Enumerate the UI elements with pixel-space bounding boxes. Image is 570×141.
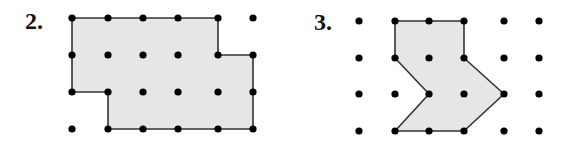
grid-dot <box>460 54 467 61</box>
grid-dot <box>355 90 362 97</box>
grid-dot <box>104 51 111 58</box>
grid-dot <box>391 127 398 134</box>
grid-dot <box>425 54 432 61</box>
grid-dot <box>214 14 221 21</box>
grid-dot <box>500 127 507 134</box>
grid-dot <box>425 127 432 134</box>
grid-dot <box>174 125 181 132</box>
grid-dot <box>174 88 181 95</box>
grid-dot <box>249 125 256 132</box>
grid-dot <box>535 127 542 134</box>
grid-dot <box>460 127 467 134</box>
grid-dot <box>249 88 256 95</box>
grid-dot <box>460 90 467 97</box>
grid-dot <box>500 17 507 24</box>
grid-dot <box>174 14 181 21</box>
grid-dot <box>355 17 362 24</box>
grid-dot <box>68 125 75 132</box>
dot-grid-diagrams <box>0 0 570 141</box>
grid-dot <box>355 127 362 134</box>
grid-dot <box>139 51 146 58</box>
grid-dot <box>391 90 398 97</box>
grid-dot <box>249 14 256 21</box>
figure-3-shape <box>355 17 542 134</box>
grid-dot <box>391 17 398 24</box>
shaded-polygon <box>72 18 253 129</box>
grid-dot <box>214 88 221 95</box>
grid-dot <box>391 54 398 61</box>
grid-dot <box>68 88 75 95</box>
grid-dot <box>139 88 146 95</box>
grid-dot <box>500 54 507 61</box>
grid-dot <box>249 51 256 58</box>
shaded-polygon <box>395 21 504 131</box>
grid-dot <box>174 51 181 58</box>
grid-dot <box>500 90 507 97</box>
grid-dot <box>104 14 111 21</box>
grid-dot <box>460 17 467 24</box>
grid-dot <box>214 51 221 58</box>
grid-dot <box>68 51 75 58</box>
grid-dot <box>535 90 542 97</box>
grid-dot <box>535 54 542 61</box>
grid-dot <box>68 14 75 21</box>
figure-2-shape <box>68 14 256 132</box>
grid-dot <box>535 17 542 24</box>
grid-dot <box>425 17 432 24</box>
grid-dot <box>139 125 146 132</box>
grid-dot <box>139 14 146 21</box>
grid-dot <box>425 90 432 97</box>
grid-dot <box>104 88 111 95</box>
grid-dot <box>104 125 111 132</box>
grid-dot <box>214 125 221 132</box>
grid-dot <box>355 54 362 61</box>
